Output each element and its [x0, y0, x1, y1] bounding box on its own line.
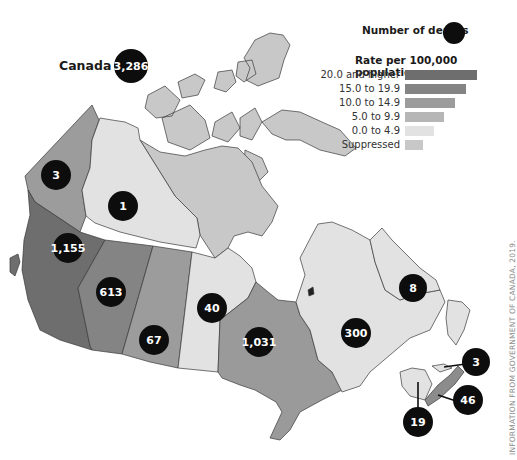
legend-swatch [405, 126, 434, 136]
legend-item: 5.0 to 9.9 [330, 110, 517, 124]
legend-item: 0.0 to 4.9 [330, 124, 517, 138]
svg-text:46: 46 [460, 394, 476, 407]
bubble-nova-scotia: 46 [453, 385, 483, 415]
legend-item-label: 15.0 to 19.9 [339, 82, 400, 96]
legend-item-label: 0.0 to 4.9 [352, 124, 400, 138]
legend-item-label: 10.0 to 14.9 [339, 96, 400, 110]
bubble-saskatchewan: 67 [139, 325, 169, 355]
legend-swatch [405, 70, 477, 80]
canada-label: Canada [59, 58, 111, 73]
bubble-quebec: 300 [341, 318, 371, 348]
bubble-alberta: 613 [96, 277, 126, 307]
bubble-canada: 3,286 [114, 49, 149, 83]
legend-item: Suppressed [330, 138, 517, 152]
legend-item: 10.0 to 14.9 [330, 96, 517, 110]
bubble-pei: 3 [462, 348, 490, 376]
svg-text:40: 40 [204, 302, 220, 315]
bubble-manitoba: 40 [197, 293, 227, 323]
bubble-newfoundland-labrador: 8 [399, 274, 427, 302]
svg-text:300: 300 [345, 327, 368, 340]
svg-text:1,155: 1,155 [51, 242, 86, 255]
bubble-new-brunswick: 19 [403, 407, 433, 437]
legend-swatch [405, 98, 455, 108]
legend-swatch [405, 84, 466, 94]
svg-text:19: 19 [410, 416, 425, 429]
svg-text:1,031: 1,031 [242, 336, 277, 349]
bubble-yukon: 3 [41, 160, 71, 190]
legend-item-label: Suppressed [342, 138, 400, 152]
legend-deaths-dot-icon [443, 22, 465, 44]
region-new-brunswick [400, 368, 432, 400]
legend-item: 15.0 to 19.9 [330, 82, 517, 96]
svg-text:613: 613 [100, 286, 123, 299]
legend-item-label: 20.0 and higher [320, 68, 400, 82]
legend-item-label: 5.0 to 9.9 [352, 110, 400, 124]
svg-text:3,286: 3,286 [114, 60, 149, 73]
svg-text:67: 67 [146, 334, 161, 347]
bubble-nwt: 1 [108, 191, 138, 221]
svg-text:3: 3 [52, 169, 60, 182]
region-pei [432, 364, 452, 372]
legend-swatch [405, 140, 423, 150]
svg-text:3: 3 [472, 356, 480, 369]
svg-text:8: 8 [409, 282, 417, 295]
svg-text:1: 1 [119, 200, 127, 213]
legend-item: 20.0 and higher [330, 68, 517, 82]
source-credit: INFORMATION FROM GOVERNMENT OF CANADA, 2… [508, 240, 517, 455]
legend-swatch [405, 112, 444, 122]
